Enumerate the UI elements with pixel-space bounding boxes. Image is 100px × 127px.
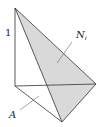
- base-label: A: [8, 109, 16, 120]
- height-label: 1: [5, 27, 11, 38]
- leader-a: [20, 96, 39, 110]
- face-label-sub: i: [85, 34, 87, 41]
- face-label: Ni: [75, 29, 87, 41]
- tetrahedron-diagram: 1 Ni A: [0, 0, 100, 127]
